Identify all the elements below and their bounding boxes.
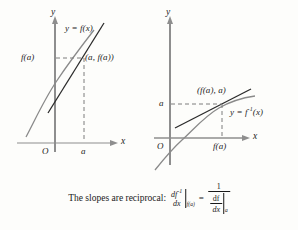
right-y-tick-label: a (159, 99, 164, 108)
right-point-label: (f(a), a) (197, 86, 226, 95)
rhs-fraction: 1 df dx a (208, 182, 230, 214)
rhs-inner-denominator: dx (210, 204, 222, 214)
right-graph-panel: y x O f(a) a (f(a), a) y = f-1(x) (149, 0, 298, 175)
lhs-denominator: dx (171, 199, 183, 208)
left-x-tick-label: a (81, 147, 86, 156)
left-curve-label: y = f(x) (65, 24, 93, 33)
left-x-axis-label: x (121, 137, 125, 147)
right-x-tick-label: f(a) (213, 142, 226, 151)
rhs-numerator: 1 (214, 182, 224, 191)
rhs-inner-numerator: df (210, 194, 223, 203)
left-y-tick-label: f(a) (21, 53, 34, 62)
lhs-fraction: df-1 dx (169, 189, 184, 208)
left-origin-label: O (42, 147, 49, 156)
left-x-axis (17, 140, 118, 146)
lhs-derivative-group: df-1 dx f(a) (169, 189, 195, 208)
right-curve-label-base: y = f (230, 107, 248, 117)
caption-text: The slopes are reciprocal: (68, 193, 166, 203)
right-curve-label: y = f-1(x) (230, 106, 263, 117)
left-point-label: (a, f(a)) (85, 53, 114, 62)
rhs-derivative-group: df dx a (210, 193, 228, 214)
rhs-evaluation-point: a (225, 207, 228, 214)
figure-root: y x O a f(a) (a, f(a)) y = f(x) (0, 0, 298, 230)
rhs-denominator: df dx a (208, 192, 230, 214)
lhs-numerator-exponent: -1 (177, 188, 182, 194)
left-y-axis-label: y (51, 8, 55, 18)
right-x-axis-label: x (253, 132, 257, 142)
right-y-axis (167, 16, 173, 165)
right-curve-label-tail: (x) (253, 107, 263, 117)
caption-region: The slopes are reciprocal: df-1 dx f(a) … (0, 176, 298, 230)
left-curve-f (26, 30, 94, 137)
lhs-numerator: df-1 (169, 188, 184, 199)
caption-formula-row: The slopes are reciprocal: df-1 dx f(a) … (68, 182, 230, 214)
lhs-evaluation-point: f(a) (186, 201, 194, 208)
left-tangent-line (48, 23, 104, 113)
right-origin-label: O (157, 142, 164, 151)
rhs-inner-fraction: df dx (210, 193, 223, 214)
left-graph-panel: y x O a f(a) (a, f(a)) y = f(x) (0, 0, 149, 175)
right-x-axis (154, 135, 250, 141)
right-y-axis-label: y (166, 8, 170, 18)
equals-sign: = (199, 193, 204, 203)
